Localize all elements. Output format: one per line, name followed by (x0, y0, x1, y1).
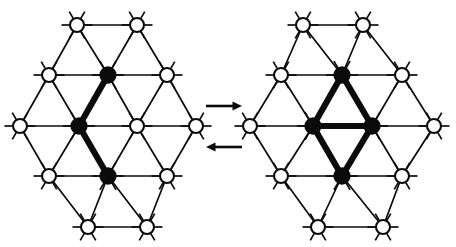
lattice-edge (303, 25, 342, 75)
substrate-site-node (296, 18, 310, 32)
figure-canvas (0, 0, 456, 247)
occupied-site-node (334, 67, 349, 82)
substrate-site-node (395, 169, 409, 183)
substrate-site-node (130, 18, 144, 32)
forward-arrow-head (233, 101, 243, 110)
substrate-site-node (160, 169, 174, 183)
substrate-site-node (427, 119, 441, 133)
lattice-edge (108, 176, 147, 227)
occupied-site-node (100, 67, 115, 82)
substrate-site-node (42, 68, 56, 82)
substrate-site-node (395, 68, 409, 82)
occupied-site-node (71, 118, 86, 133)
lattice-edge (281, 25, 303, 75)
occupied-site-node (334, 168, 349, 183)
substrate-site-node (274, 68, 288, 82)
substrate-site-node (274, 169, 288, 183)
substrate-site-node (356, 18, 370, 32)
substrate-site-node (130, 119, 144, 133)
substrate-site-node (311, 220, 325, 234)
occupied-site-node (100, 168, 115, 183)
reverse-arrow-head (206, 142, 216, 151)
substrate-site-node (376, 220, 390, 234)
substrate-site-node (160, 68, 174, 82)
lattice-edge (49, 176, 88, 227)
lattice-edge (363, 25, 402, 75)
occupied-site-node (364, 118, 379, 133)
substrate-site-node (243, 119, 257, 133)
substrate-site-node (70, 18, 84, 32)
substrate-site-node (81, 220, 95, 234)
substrate-site-node (189, 119, 203, 133)
lattice-edge (147, 176, 167, 227)
substrate-site-node (42, 169, 56, 183)
lattice-edge (281, 176, 318, 227)
lattice-edge (383, 176, 402, 227)
lattice-nodes-layer (13, 18, 441, 234)
lattice-edge (342, 176, 383, 227)
occupied-site-node (305, 118, 320, 133)
substrate-site-node (13, 119, 27, 133)
lattice-diagram-svg (0, 0, 456, 247)
substrate-site-node (140, 220, 154, 234)
